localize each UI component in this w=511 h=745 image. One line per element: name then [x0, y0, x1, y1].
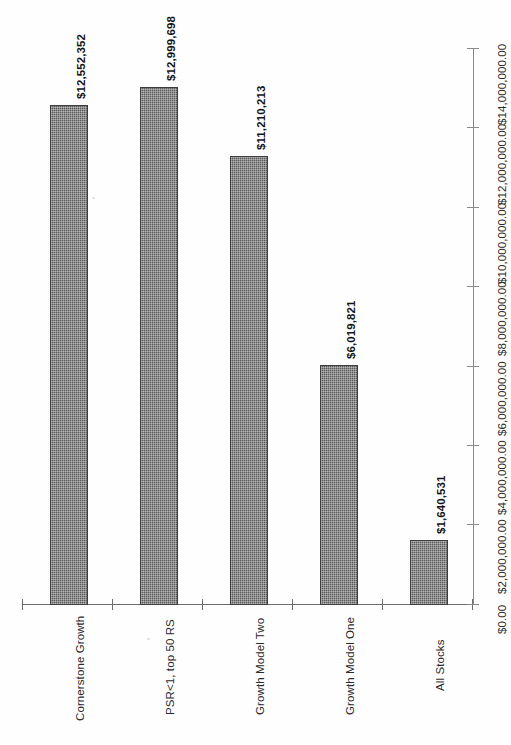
value-tick-2m	[467, 524, 479, 525]
category-tick	[382, 599, 383, 610]
category-label-all-stocks: All Stocks	[434, 640, 446, 692]
plot-area: $12,552,352 $12,999,698 $11,210,213 $6,0…	[0, 0, 511, 745]
bar-cornerstone-growth[interactable]	[50, 105, 88, 605]
category-label-growth-model-two: Growth Model Two	[254, 618, 266, 715]
data-label-psr-top-50-rs: $12,999,698	[165, 16, 177, 81]
value-tick-6m	[467, 366, 479, 367]
value-tick-4m	[467, 445, 479, 446]
value-tick-label-0: $0.00	[496, 605, 508, 634]
value-tick-10m	[467, 207, 479, 208]
bar-psr-top-50-rs[interactable]	[140, 87, 178, 605]
data-label-all-stocks: $1,640,531	[435, 475, 447, 534]
data-label-cornerstone-growth: $12,552,352	[75, 34, 87, 99]
value-tick-label-8m: $8,000,000.00	[496, 281, 508, 356]
bar-all-stocks[interactable]	[410, 540, 448, 605]
value-tick-label-4m: $4,000,000.00	[496, 440, 508, 515]
value-tick-label-10m: $10,000,000.00	[496, 203, 508, 284]
value-axis-line	[473, 48, 474, 605]
value-tick-0	[467, 604, 479, 605]
data-label-growth-model-one: $6,019,821	[345, 300, 357, 359]
bar-chart: $12,552,352 $12,999,698 $11,210,213 $6,0…	[0, 0, 511, 745]
scan-speckle	[92, 197, 95, 199]
value-tick-label-12m: $12,000,000.00	[496, 124, 508, 205]
scan-speckle	[147, 638, 150, 640]
bar-growth-model-one[interactable]	[320, 365, 358, 605]
value-tick-14m	[467, 48, 479, 49]
value-tick-label-6m: $6,000,000.00	[496, 361, 508, 436]
value-tick-12m	[467, 127, 479, 128]
category-tick	[202, 599, 203, 610]
value-tick-8m	[467, 286, 479, 287]
value-tick-label-2m: $2,000,000.00	[496, 519, 508, 594]
category-tick	[112, 599, 113, 610]
data-label-growth-model-two: $11,210,213	[255, 86, 267, 150]
category-label-psr-top-50-rs: PSR<1, top 50 RS	[164, 619, 176, 715]
category-tick	[292, 599, 293, 610]
value-tick-label-14m: $14,000,000.00	[496, 44, 508, 125]
category-tick	[22, 599, 23, 610]
bar-growth-model-two[interactable]	[230, 156, 268, 605]
category-label-cornerstone-growth: Cornerstone Growth	[74, 616, 86, 721]
category-label-growth-model-one: Growth Model One	[344, 617, 356, 715]
